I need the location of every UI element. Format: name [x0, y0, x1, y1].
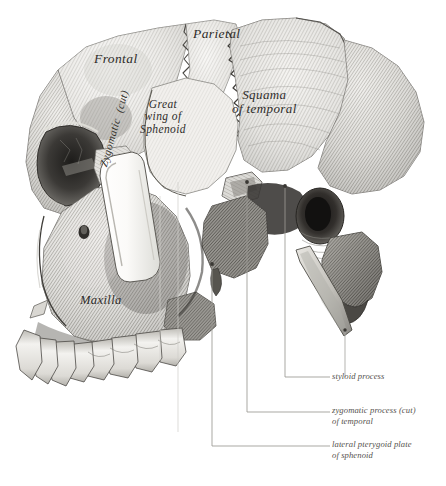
leader-dot-pterygoid [210, 262, 214, 266]
anatomical-plate: Frontal Parietal Squama of temporal Grea… [0, 0, 446, 486]
leader-dot-styloid [283, 184, 287, 188]
leader-dot-zygomatic [245, 180, 249, 184]
skull-illustration [0, 0, 446, 486]
